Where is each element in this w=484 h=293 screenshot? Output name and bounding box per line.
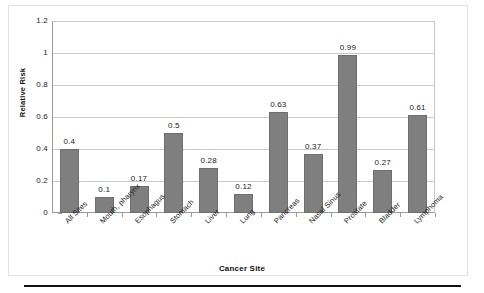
y-axis-title: Relative Risk xyxy=(18,58,27,128)
bar-value-label: 0.4 xyxy=(49,138,89,146)
bar-value-label: 0.5 xyxy=(154,122,194,130)
gridline xyxy=(53,149,434,150)
x-axis-tick-mark xyxy=(331,213,332,217)
x-axis-tick-mark xyxy=(87,213,88,217)
y-axis-tick-label: 1 xyxy=(14,49,48,57)
bar xyxy=(164,133,183,213)
y-axis-tick-label: 1.2 xyxy=(14,17,48,25)
bar xyxy=(304,154,323,213)
bar-value-label: 0.27 xyxy=(363,159,403,167)
y-axis-tick-label: 0.2 xyxy=(14,177,48,185)
bottom-divider-rule xyxy=(24,285,461,287)
figure-container: 00.20.40.60.811.2 Relative Risk 0.40.10.… xyxy=(0,0,484,293)
bar-value-label: 0.99 xyxy=(328,44,368,52)
gridline xyxy=(53,85,434,86)
bar-value-label: 0.17 xyxy=(119,175,159,183)
bar xyxy=(269,112,288,213)
x-axis-tick-mark xyxy=(122,213,123,217)
bar xyxy=(60,149,79,213)
x-axis-tick-mark xyxy=(365,213,366,217)
bar-value-label: 0.63 xyxy=(258,101,298,109)
bar-value-label: 0.1 xyxy=(84,186,124,194)
bar xyxy=(408,115,427,213)
bar xyxy=(199,168,218,213)
y-axis-tick-labels: 00.20.40.60.811.2 xyxy=(10,0,48,293)
gridline xyxy=(53,53,434,54)
x-axis-tick-mark xyxy=(226,213,227,217)
x-axis-tick-mark xyxy=(261,213,262,217)
x-axis-title: Cancer Site xyxy=(0,264,484,273)
y-axis-tick-label: 0.4 xyxy=(14,145,48,153)
bar-value-label: 0.37 xyxy=(293,143,333,151)
x-axis-tick-mark xyxy=(435,213,436,217)
bar-value-label: 0.12 xyxy=(224,183,264,191)
y-axis-tick-mark xyxy=(58,213,62,214)
bar-value-label: 0.61 xyxy=(398,104,438,112)
bar xyxy=(338,55,357,213)
x-axis-tick-mark xyxy=(156,213,157,217)
x-axis-tick-mark xyxy=(191,213,192,217)
x-axis-tick-mark xyxy=(400,213,401,217)
gridline xyxy=(53,21,434,22)
gridline xyxy=(53,117,434,118)
x-axis-tick-mark xyxy=(296,213,297,217)
bar-value-label: 0.28 xyxy=(189,157,229,165)
y-axis-tick-label: 0 xyxy=(14,209,48,217)
